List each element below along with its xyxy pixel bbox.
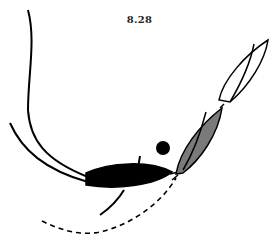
white-boat (219, 40, 268, 102)
sailing-diagram (0, 0, 279, 241)
black-boat (86, 164, 172, 187)
hatched-boat (176, 108, 222, 174)
lower-track (100, 190, 124, 215)
course-line-2 (10, 123, 88, 182)
mark-buoy (156, 141, 170, 155)
course-line-1 (28, 10, 88, 177)
